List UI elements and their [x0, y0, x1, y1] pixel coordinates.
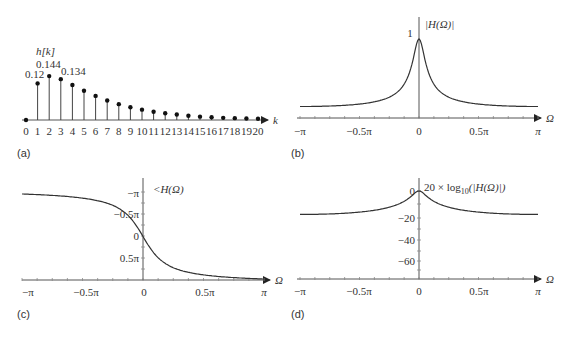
xtick-b-0: −π	[294, 125, 306, 137]
ytick-c-2: 0	[134, 230, 140, 242]
stem-marker	[221, 116, 225, 120]
xtick-c-4: π	[261, 286, 267, 298]
x-axis-label-c: Ω	[275, 274, 283, 286]
xtick-d-3: 0.5π	[469, 285, 489, 297]
stem-marker	[186, 114, 190, 118]
stem-marker	[35, 81, 39, 85]
stem-marker	[128, 105, 132, 109]
x-tick-label: 2	[46, 125, 52, 137]
panel-label-c: (c)	[17, 308, 30, 320]
xtick-d-1: −0.5π	[346, 285, 372, 297]
xtick-d-2: 0	[416, 285, 422, 297]
xtick-b-4: π	[535, 125, 541, 137]
y-axis-label-c: <H(Ω)	[153, 183, 184, 196]
x-tick-label: 16	[206, 125, 218, 137]
x-tick-label: 18	[229, 125, 241, 137]
x-tick-label: 6	[93, 125, 99, 137]
xtick-c-3: 0.5π	[195, 286, 215, 298]
xtick-b-1: −0.5π	[346, 125, 372, 137]
panel-a: 01234567891011121314151617181920 k h[k] …	[17, 45, 279, 159]
stem-marker	[244, 116, 248, 120]
x-tick-label: 0	[23, 125, 29, 137]
ytick-d-2: −40	[398, 234, 416, 246]
x-tick-label: 8	[116, 125, 122, 137]
stem-marker	[209, 115, 213, 119]
stem-marker	[24, 118, 28, 122]
x-tick-label: 12	[160, 125, 171, 137]
x-tick-label: 20	[253, 125, 265, 137]
stem-marker	[175, 112, 179, 116]
ytick-d-1: −20	[398, 212, 416, 224]
xtick-c-2: 0	[141, 286, 147, 298]
x-tick-labels-a: 01234567891011121314151617181920	[23, 125, 264, 137]
x-tick-label: 7	[104, 125, 110, 137]
stem-marker	[256, 117, 260, 121]
xtick-b-3: 0.5π	[469, 125, 489, 137]
stem-marker	[93, 94, 97, 98]
xtick-c-1: −0.5π	[73, 286, 99, 298]
x-tick-label: 19	[241, 125, 253, 137]
ylabel-d-sub: 10	[461, 187, 469, 196]
ytick-d-0: 0	[410, 185, 416, 197]
panel-label-a: (a)	[17, 147, 30, 159]
stem-marker	[117, 102, 121, 106]
xtick-d-4: π	[535, 285, 541, 297]
stem-marker	[70, 83, 74, 87]
panel-label-b: (b)	[291, 147, 304, 159]
ytick-b-1: 1	[407, 27, 413, 39]
x-axis-label-d: Ω	[546, 273, 554, 285]
x-tick-label: 14	[183, 125, 195, 137]
stem-marker	[233, 116, 237, 120]
x-tick-label: 17	[218, 125, 230, 137]
stem-marker	[47, 74, 51, 78]
x-tick-label: 13	[171, 125, 183, 137]
annotation-k3: 0.134	[61, 65, 86, 77]
x-tick-label: 3	[58, 125, 64, 137]
x-tick-label: 5	[81, 125, 87, 137]
x-tick-label: 11	[148, 125, 159, 137]
xtick-d-0: −π	[294, 285, 306, 297]
stem-marker	[105, 98, 109, 102]
stem-marker	[82, 89, 86, 93]
x-axis-label-b: Ω	[546, 112, 554, 124]
x-tick-label: 9	[128, 125, 134, 137]
y-axis-label-a: h[k]	[36, 45, 55, 57]
ytick-c-3: 0.5π	[120, 252, 140, 264]
ylabel-d-main: 20 × log	[424, 181, 461, 193]
stem-marker	[163, 111, 167, 115]
x-axis-label-a: k	[273, 114, 279, 126]
figure: 01234567891011121314151617181920 k h[k] …	[0, 0, 580, 341]
xtick-c-0: −π	[22, 286, 34, 298]
stem-series	[24, 74, 260, 122]
stem-marker	[151, 110, 155, 114]
x-tick-label: 15	[195, 125, 207, 137]
annotation-k2: 0.144	[36, 58, 61, 70]
ylabel-d-tail: (|H(Ω)|)	[469, 181, 506, 194]
y-axis-label-b: |H(Ω)|	[425, 18, 454, 31]
panel-d: 0 −20 −40 −60 20 × log10(|H(Ω)|) −π −0.5…	[291, 178, 554, 320]
ytick-c-0: −π	[127, 187, 139, 199]
y-axis-label-d: 20 × log10(|H(Ω)|)	[424, 181, 506, 196]
stem-marker	[59, 77, 63, 81]
xtick-b-2: 0	[416, 125, 422, 137]
x-tick-label: 10	[137, 125, 149, 137]
stem-marker	[198, 114, 202, 118]
ytick-d-3: −60	[398, 255, 416, 267]
ytick-c-1: −0.5π	[113, 208, 139, 220]
x-tick-label: 4	[70, 125, 76, 137]
panel-label-d: (d)	[291, 308, 304, 320]
panel-c: −π −0.5π 0 0.5π <H(Ω) −π −0.5π 0 0.5π π …	[17, 178, 283, 320]
panel-b: −π −0.5π 0 0.5π π Ω 1 |H(Ω)| (b)	[291, 17, 554, 159]
x-tick-label: 1	[35, 125, 41, 137]
stem-marker	[140, 107, 144, 111]
